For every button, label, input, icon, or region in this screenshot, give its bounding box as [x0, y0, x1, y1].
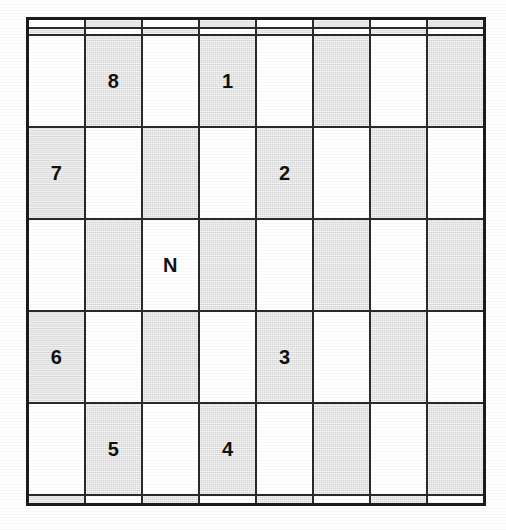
board-cell[interactable] — [427, 19, 484, 28]
board-cell[interactable] — [28, 495, 85, 504]
board-cell[interactable] — [370, 127, 427, 219]
board-cell[interactable] — [85, 219, 142, 311]
board-cell[interactable]: 1 — [199, 35, 256, 127]
cell-label: 3 — [279, 347, 290, 367]
board-cell[interactable] — [313, 403, 370, 495]
board-cell[interactable] — [199, 311, 256, 403]
board-cell[interactable]: 7 — [28, 127, 85, 219]
board-cell[interactable]: 4 — [199, 403, 256, 495]
cell-label: 6 — [51, 347, 62, 367]
board-cell[interactable] — [313, 19, 370, 28]
cell-label: 8 — [108, 71, 119, 91]
board-cell[interactable]: 3 — [256, 311, 313, 403]
board-cell[interactable] — [85, 495, 142, 504]
board-cell[interactable] — [28, 219, 85, 311]
board-cell[interactable] — [199, 495, 256, 504]
board-cell[interactable] — [427, 311, 484, 403]
board-cell[interactable] — [142, 495, 199, 504]
board-row: 81 — [28, 35, 485, 127]
board-cell[interactable] — [370, 35, 427, 127]
cell-label: 7 — [51, 163, 62, 183]
board-cell[interactable] — [28, 19, 85, 28]
board-cell[interactable]: 8 — [85, 35, 142, 127]
board-cell[interactable] — [370, 219, 427, 311]
board-row: 72 — [28, 127, 485, 219]
board-row — [28, 495, 485, 504]
board-cell[interactable] — [28, 403, 85, 495]
board-cell[interactable] — [256, 35, 313, 127]
board-cell[interactable] — [256, 403, 313, 495]
board-cell[interactable] — [28, 28, 85, 35]
board-cell[interactable] — [256, 19, 313, 28]
board-cell[interactable] — [313, 127, 370, 219]
board-cell[interactable] — [313, 28, 370, 35]
board-cell[interactable]: 2 — [256, 127, 313, 219]
board-cell[interactable] — [370, 28, 427, 35]
board-cell[interactable] — [427, 219, 484, 311]
board-cell[interactable] — [256, 28, 313, 35]
board-cell[interactable] — [370, 19, 427, 28]
board-cell[interactable] — [85, 311, 142, 403]
board-cell[interactable]: 6 — [28, 311, 85, 403]
board-row: 54 — [28, 403, 485, 495]
board-cell[interactable] — [370, 495, 427, 504]
cell-label: N — [163, 255, 177, 275]
board-cell[interactable] — [142, 19, 199, 28]
board-row — [28, 28, 485, 35]
board-cell[interactable]: N — [142, 219, 199, 311]
board-cell[interactable] — [142, 28, 199, 35]
board-cell[interactable] — [28, 35, 85, 127]
board-cell[interactable] — [427, 35, 484, 127]
cell-label: 5 — [108, 439, 119, 459]
checkerboard-container: 8172N6354 — [26, 17, 486, 506]
board-cell[interactable] — [85, 127, 142, 219]
board-cell[interactable] — [370, 311, 427, 403]
board-cell[interactable]: 5 — [85, 403, 142, 495]
board-row: N — [28, 219, 485, 311]
board-cell[interactable] — [199, 28, 256, 35]
board-cell[interactable] — [313, 311, 370, 403]
board-cell[interactable] — [199, 19, 256, 28]
board-cell[interactable] — [427, 127, 484, 219]
cell-label: 2 — [279, 163, 290, 183]
board-cell[interactable] — [370, 403, 427, 495]
board-cell[interactable] — [199, 219, 256, 311]
board-cell[interactable] — [142, 311, 199, 403]
checkerboard-grid: 8172N6354 — [26, 17, 486, 506]
board-row — [28, 19, 485, 28]
board-cell[interactable] — [313, 495, 370, 504]
checkerboard-body: 8172N6354 — [28, 19, 485, 505]
board-cell[interactable] — [427, 403, 484, 495]
board-cell[interactable] — [313, 35, 370, 127]
board-cell[interactable] — [199, 127, 256, 219]
board-cell[interactable] — [142, 35, 199, 127]
board-cell[interactable] — [142, 403, 199, 495]
cell-label: 1 — [222, 71, 233, 91]
board-row: 63 — [28, 311, 485, 403]
board-cell[interactable] — [256, 219, 313, 311]
board-cell[interactable] — [313, 219, 370, 311]
board-cell[interactable] — [427, 28, 484, 35]
cell-label: 4 — [222, 439, 233, 459]
board-cell[interactable] — [85, 19, 142, 28]
board-cell[interactable] — [85, 28, 142, 35]
board-cell[interactable] — [142, 127, 199, 219]
board-cell[interactable] — [427, 495, 484, 504]
board-cell[interactable] — [256, 495, 313, 504]
